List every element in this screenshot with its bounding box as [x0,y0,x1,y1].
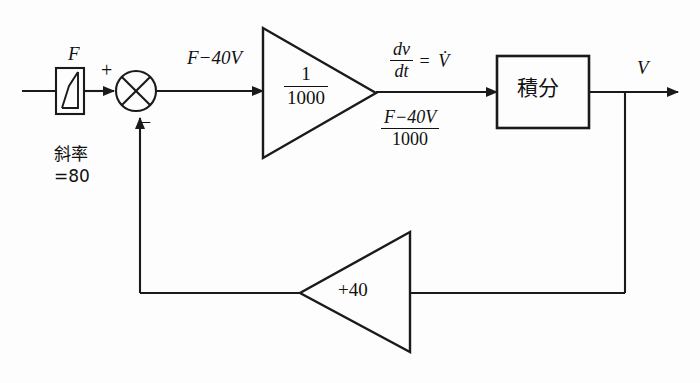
main-gain-label: 1 1000 [284,64,328,108]
error-over-gain-numerator: F−40V [381,108,439,128]
block-diagram: F + − 斜率 =80 F−40V 1 1000 dv dt = V̇ F−4… [0,0,700,383]
sum-plus-sign: + [101,60,112,80]
derivative-fraction: dv dt [390,40,413,82]
output-signal-label: V [637,58,649,77]
derivative-result: V̇ [436,52,451,70]
main-gain-numerator: 1 [284,64,328,86]
error-over-gain-denominator: 1000 [381,128,439,149]
slope-annotation-line1: 斜率 [54,144,88,164]
diagram-canvas [0,0,700,383]
ramp-slope-icon [62,72,78,108]
error-over-gain-fraction: F−40V 1000 [381,108,439,150]
main-gain-denominator: 1000 [284,86,328,109]
derivative-equals-sign: = [418,52,432,70]
feedback-gain-label: +40 [338,280,368,299]
derivative-denominator: dt [390,60,413,81]
derivative-label: dv dt = V̇ [390,40,451,82]
input-signal-label: F [68,44,80,63]
sum-minus-sign: − [140,112,151,132]
integrator-block-label: 積分 [517,78,559,99]
error-signal-label: F−40V [187,48,242,67]
slope-annotation-line2: =80 [54,168,90,185]
derivative-numerator: dv [390,40,413,60]
input-slope-annotation: 斜率 =80 [54,146,90,185]
main-gain-fraction: 1 1000 [284,64,328,108]
error-over-gain-label: F−40V 1000 [381,108,439,150]
